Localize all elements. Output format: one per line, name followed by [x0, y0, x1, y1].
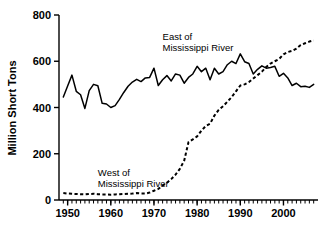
x-tick-label-1970: 1970 — [142, 207, 166, 219]
x-tick-label-1990: 1990 — [228, 207, 252, 219]
series-line-east-of-mississippi — [63, 54, 313, 109]
coal-production-line-chart: Million Short Tons 0200400600800 1950196… — [0, 0, 325, 228]
east-annotation: East ofMississippi River — [163, 31, 234, 53]
x-tick-label-1950: 1950 — [55, 207, 79, 219]
y-tick-label-400: 400 — [33, 102, 51, 114]
y-axis-title: Million Short Tons — [6, 60, 18, 155]
east-annotation-line2: Mississippi River — [163, 42, 234, 53]
y-tick-label-600: 600 — [33, 55, 51, 67]
x-tick-label-1980: 1980 — [185, 207, 209, 219]
y-axis-tick-labels: 0200400600800 — [33, 9, 51, 206]
y-tick-label-200: 200 — [33, 148, 51, 160]
chart-container: Million Short Tons 0200400600800 1950196… — [0, 0, 325, 228]
x-axis-tick-labels: 195019601970198019902000 — [55, 207, 295, 219]
east-annotation-line1: East of — [163, 31, 193, 42]
west-annotation-line1: West of — [98, 167, 130, 178]
y-axis-ticks — [54, 15, 59, 200]
west-annotation: West ofMississippi River — [98, 167, 169, 189]
y-axis-title-group: Million Short Tons — [6, 60, 18, 155]
west-annotation-line2: Mississippi River — [98, 178, 169, 189]
chart-annotations: East ofMississippi RiverWest ofMississip… — [98, 31, 233, 188]
y-tick-label-0: 0 — [45, 194, 51, 206]
x-tick-label-1960: 1960 — [99, 207, 123, 219]
x-tick-label-2000: 2000 — [271, 207, 295, 219]
y-tick-label-800: 800 — [33, 9, 51, 21]
